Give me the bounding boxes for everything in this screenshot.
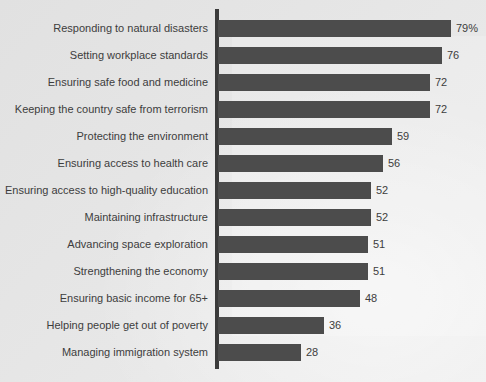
bar-row: Ensuring access to high-quality educatio… [0, 177, 486, 204]
bar-value-label: 59 [392, 128, 409, 145]
bar-value-label: 72 [430, 74, 447, 91]
bar [218, 290, 360, 307]
bar-row: Protecting the environment59 [0, 123, 486, 150]
bar [218, 47, 442, 64]
category-label: Setting workplace standards [70, 42, 208, 69]
bar-row: Ensuring safe food and medicine72 [0, 69, 486, 96]
bar-row: Helping people get out of poverty36 [0, 312, 486, 339]
bar-value-label: 28 [301, 344, 318, 361]
bar-row: Advancing space exploration51 [0, 231, 486, 258]
bar [218, 74, 430, 91]
category-label: Maintaining infrastructure [84, 204, 208, 231]
category-label: Strengthening the economy [73, 258, 208, 285]
bar-container: 51 [218, 236, 368, 253]
bar-container: 79% [218, 20, 451, 37]
bar-container: 72 [218, 101, 430, 118]
category-label: Ensuring access to high-quality educatio… [5, 177, 208, 204]
bar-row: Ensuring basic income for 65+48 [0, 285, 486, 312]
bar [218, 155, 383, 172]
bar [218, 101, 430, 118]
bar-row: Maintaining infrastructure52 [0, 204, 486, 231]
bar [218, 209, 371, 226]
bar-chart: Responding to natural disasters79%Settin… [0, 0, 486, 382]
bar-container: 52 [218, 209, 371, 226]
bar-container: 72 [218, 74, 430, 91]
bar-container: 56 [218, 155, 383, 172]
bar-row: Responding to natural disasters79% [0, 15, 486, 42]
bar-value-label: 48 [360, 290, 377, 307]
bar-container: 52 [218, 182, 371, 199]
bar-value-label: 56 [383, 155, 400, 172]
category-label: Ensuring basic income for 65+ [60, 285, 208, 312]
bar [218, 20, 451, 37]
bar-value-label: 52 [371, 182, 388, 199]
bar-value-label: 79% [451, 20, 478, 37]
category-label: Advancing space exploration [67, 231, 208, 258]
bar-row: Ensuring access to health care56 [0, 150, 486, 177]
bar [218, 263, 368, 280]
bar-row: Strengthening the economy51 [0, 258, 486, 285]
bar-container: 51 [218, 263, 368, 280]
bar-value-label: 52 [371, 209, 388, 226]
bar-value-label: 51 [368, 236, 385, 253]
category-label: Helping people get out of poverty [47, 312, 208, 339]
bar [218, 182, 371, 199]
category-label: Ensuring safe food and medicine [48, 69, 208, 96]
bar-container: 48 [218, 290, 360, 307]
bar-row: Setting workplace standards76 [0, 42, 486, 69]
category-label: Responding to natural disasters [53, 15, 208, 42]
bar [218, 344, 301, 361]
category-label: Managing immigration system [62, 339, 208, 366]
bar-value-label: 36 [324, 317, 341, 334]
bar [218, 128, 392, 145]
bar-value-label: 76 [442, 47, 459, 64]
bar-rows: Responding to natural disasters79%Settin… [0, 0, 486, 382]
bar-value-label: 51 [368, 263, 385, 280]
bar [218, 317, 324, 334]
bar-row: Keeping the country safe from terrorism7… [0, 96, 486, 123]
bar-container: 28 [218, 344, 301, 361]
bar [218, 236, 368, 253]
bar-value-label: 72 [430, 101, 447, 118]
category-label: Ensuring access to health care [58, 150, 208, 177]
bar-container: 36 [218, 317, 324, 334]
category-label: Protecting the environment [77, 123, 208, 150]
bar-row: Managing immigration system28 [0, 339, 486, 366]
bar-container: 59 [218, 128, 392, 145]
category-label: Keeping the country safe from terrorism [15, 96, 208, 123]
bar-container: 76 [218, 47, 442, 64]
